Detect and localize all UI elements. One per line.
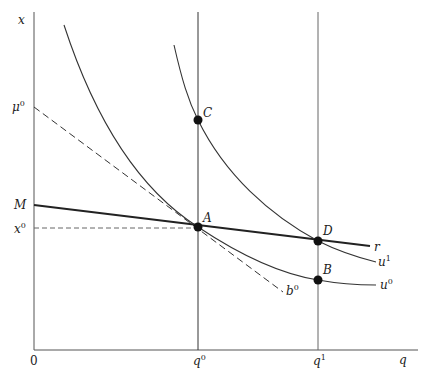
origin-label: 0 — [30, 354, 38, 368]
point-d-marker — [314, 237, 323, 246]
diagram-canvas: A C D B x q 0 μ0 M x0 q0 q1 r u1 u0 b0 — [0, 0, 426, 377]
x0-label: x0 — [14, 221, 26, 236]
y-axis-label: x — [18, 13, 25, 27]
x-axis-label: q — [399, 353, 407, 367]
r-label: r — [374, 240, 381, 254]
b0-label: b0 — [286, 283, 299, 298]
point-c-label: C — [203, 106, 212, 120]
q0-label: q0 — [193, 353, 206, 368]
u1-label: u1 — [378, 254, 391, 269]
u0-label: u0 — [380, 277, 393, 292]
point-d-label: D — [322, 224, 333, 238]
point-a-label: A — [202, 211, 212, 225]
point-b-label: B — [322, 263, 332, 277]
point-a-marker — [194, 223, 203, 232]
b0-budget-line — [34, 107, 283, 292]
point-b-marker — [314, 276, 323, 285]
u1-curve — [174, 45, 376, 262]
mu0-label: μ0 — [12, 99, 25, 114]
point-c-marker — [194, 116, 203, 125]
q1-label: q1 — [313, 353, 326, 368]
m-label: M — [13, 198, 27, 212]
